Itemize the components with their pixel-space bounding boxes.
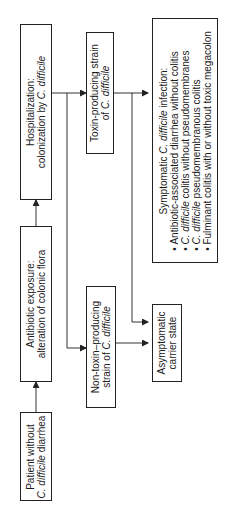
symptomatic-title: Symptomatic C. difficile infection: — [158, 31, 169, 251]
patient-organism: C. difficile — [36, 455, 47, 498]
nontoxin-line1: Non-toxin–producing — [90, 301, 101, 393]
node-asymptomatic-carrier: Asymptomatic carrier state — [152, 304, 182, 382]
symptomatic-bullet-3: • C. difficile pseudomembranous colitis — [191, 31, 202, 251]
patient-line1: Patient without — [25, 424, 36, 490]
patient-line2: diarrhea — [36, 415, 47, 454]
node-antibiotic-exposure: Antibiotic exposure: alteration of colon… — [20, 226, 52, 382]
antibiotic-line1: Antibiotic exposure: — [25, 260, 36, 347]
symptomatic-bullet-4: • Fulminant colitis with or without toxi… — [202, 31, 213, 251]
nontoxin-organism: C. difficile — [101, 306, 112, 349]
hospitalization-organism: C. difficile — [36, 56, 47, 99]
hospitalization-line1: Hospitalization: — [25, 78, 36, 146]
symptomatic-bullet-2: • C. difficile colitis without pseudomem… — [180, 31, 191, 251]
flow-diagram: Patient without C. difficile diarrhea An… — [0, 0, 227, 518]
hospitalization-line2: colonization by — [36, 99, 47, 168]
node-patient: Patient without C. difficile diarrhea — [20, 412, 52, 501]
node-toxin-producing: Toxin-producing strain of C. difficile — [86, 32, 114, 154]
symptomatic-bullet-1: • Antibiotic-associated diarrhea without… — [169, 31, 180, 251]
node-symptomatic-infection: Symptomatic C. difficile infection: • An… — [152, 18, 218, 263]
toxin-line1: Toxin-producing strain — [89, 44, 100, 142]
asymptomatic-line1: Asymptomatic — [156, 312, 167, 375]
node-hospitalization: Hospitalization: colonization by C. diff… — [20, 24, 52, 200]
toxin-organism: C. difficile — [100, 66, 111, 109]
nontoxin-line2: strain of — [101, 350, 112, 388]
node-non-toxin-producing: Non-toxin–producing strain of C. diffici… — [86, 286, 116, 408]
toxin-line2: of — [100, 109, 111, 120]
antibiotic-line2: alteration of colonic flora — [36, 250, 47, 358]
asymptomatic-line2: carrier state — [167, 317, 178, 370]
